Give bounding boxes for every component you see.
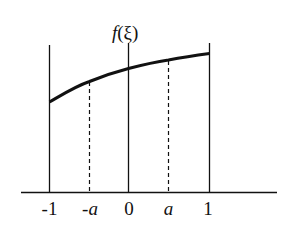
tick-label-plus-a: a [164,198,174,219]
tick-label-minus-1: -1 [42,198,58,219]
close-paren: ) [132,22,138,44]
tick-label-plus-1: 1 [203,198,213,219]
tick-label-minus-a: -a [82,198,98,219]
diagram-canvas: f(ξ) -1 -a 0 a 1 [0,0,283,231]
function-curve [50,54,210,103]
function-label: f(ξ) [112,22,138,44]
tick-label-0: 0 [124,198,134,219]
